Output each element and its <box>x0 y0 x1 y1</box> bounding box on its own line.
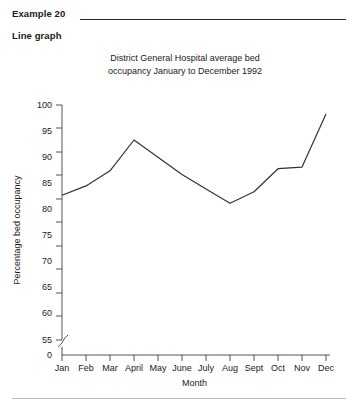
x-tick-label-june: June <box>172 364 192 373</box>
x-tick-label-oct: Oct <box>271 364 285 373</box>
y-axis-ticks <box>56 105 62 340</box>
x-tick-label-aug: Aug <box>222 364 238 373</box>
y-tick-label-75: 75 <box>26 231 52 240</box>
x-tick-label-may: May <box>149 364 166 373</box>
page-footer-divider <box>12 398 346 399</box>
data-series-line <box>62 114 326 203</box>
x-tick-label-july: July <box>198 364 214 373</box>
x-tick-label-mar: Mar <box>102 364 118 373</box>
y-tick-label-85: 85 <box>26 179 52 188</box>
y-tick-label-100: 100 <box>26 101 52 110</box>
line-chart-figure: Percentage bed occupancy Month <box>0 0 354 403</box>
y-tick-label-55: 55 <box>26 336 52 345</box>
x-tick-label-sept: Sept <box>245 364 264 373</box>
y-tick-label-0: 0 <box>26 351 52 360</box>
y-tick-label-70: 70 <box>26 257 52 266</box>
y-tick-label-80: 80 <box>26 205 52 214</box>
y-tick-label-60: 60 <box>26 309 52 318</box>
y-tick-label-95: 95 <box>26 127 52 136</box>
y-tick-label-90: 90 <box>26 153 52 162</box>
y-axis-break-icon <box>58 335 68 347</box>
x-tick-label-nov: Nov <box>294 364 310 373</box>
x-tick-label-jan: Jan <box>55 364 70 373</box>
x-tick-label-dec: Dec <box>318 364 334 373</box>
y-tick-label-65: 65 <box>26 283 52 292</box>
x-axis-ticks <box>62 355 326 361</box>
plot-canvas <box>0 0 354 403</box>
x-tick-label-april: April <box>125 364 143 373</box>
x-tick-label-feb: Feb <box>78 364 94 373</box>
